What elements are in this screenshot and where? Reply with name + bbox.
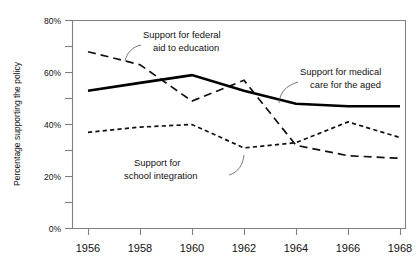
y-tick-label-80: 80% — [44, 16, 61, 26]
x-tick-label-1956: 1956 — [76, 242, 100, 254]
annot-federal-aid-leader — [125, 45, 141, 61]
annot-medical-care-line2: care for the aged — [310, 79, 381, 90]
annot-school-integration-line2: school integration — [124, 170, 198, 181]
x-tick-label-1960: 1960 — [180, 242, 204, 254]
x-tick-label-1966: 1966 — [336, 242, 360, 254]
y-axis-tick-labels: 80% 60% 40% 20% 0% — [44, 16, 61, 234]
y-tick-label-0: 0% — [49, 224, 62, 234]
y-tick-label-20: 20% — [44, 172, 61, 182]
annotation-medical-care: Support for medical care for the aged — [279, 66, 381, 103]
annot-federal-aid-line1: Support for federal — [143, 29, 221, 40]
series-line-school-integration — [88, 122, 400, 148]
annot-school-integration-line1: Support for — [134, 157, 180, 168]
annotation-school-integration: Support for school integration — [124, 155, 244, 181]
y-axis-ticks — [65, 21, 72, 229]
y-tick-label-40: 40% — [44, 120, 61, 130]
x-tick-label-1964: 1964 — [284, 242, 308, 254]
x-tick-label-1962: 1962 — [232, 242, 256, 254]
chart-container: 80% 60% 40% 20% 0% Percentage supporting… — [0, 0, 420, 268]
annot-federal-aid-line2: aid to education — [153, 42, 219, 53]
y-axis-title: Percentage supporting the policy — [12, 61, 22, 186]
annot-medical-care-line1: Support for medical — [300, 66, 381, 77]
annot-school-integration-leader — [229, 155, 244, 175]
x-axis-tick-labels: 1956 1958 1960 1962 1964 1966 1968 — [76, 242, 412, 254]
x-tick-label-1968: 1968 — [388, 242, 412, 254]
x-tick-label-1958: 1958 — [128, 242, 152, 254]
line-chart: 80% 60% 40% 20% 0% Percentage supporting… — [0, 0, 420, 268]
y-tick-label-60: 60% — [44, 68, 61, 78]
annotation-federal-aid: Support for federal aid to education — [125, 29, 221, 61]
